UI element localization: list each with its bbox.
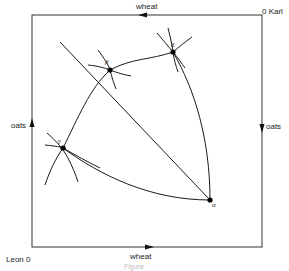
top-wheat-arrow-icon	[138, 13, 147, 18]
indiff-beta-b	[98, 50, 116, 89]
curve-beta-delta	[110, 52, 173, 70]
label-beta: β	[104, 58, 109, 66]
indiff-gamma-c	[45, 148, 63, 185]
curve-delta-alpha	[173, 52, 210, 200]
right-oats-label: oats	[266, 123, 281, 131]
point-gamma	[60, 145, 65, 150]
label-gamma: γ	[58, 137, 61, 145]
label-delta: δ	[171, 41, 175, 49]
karl-origin-label: 0 Karl	[262, 8, 283, 16]
top-wheat-label: wheat	[136, 3, 157, 11]
bottom-wheat-label: wheat	[130, 253, 151, 261]
diagonal-line	[60, 42, 210, 200]
curve-gamma-alpha	[63, 148, 210, 200]
left-oats-arrow-icon	[30, 118, 35, 127]
left-oats-label: oats	[11, 122, 26, 130]
point-delta	[170, 49, 175, 54]
curve-gamma-beta	[63, 70, 110, 148]
edgeworth-box-diagram: γ β δ α	[0, 0, 289, 271]
point-beta	[107, 67, 112, 72]
right-oats-arrow-icon	[260, 124, 265, 133]
bottom-wheat-arrow-icon	[145, 245, 154, 250]
figure-caption: Figure	[124, 263, 144, 270]
indiff-delta-c	[173, 37, 192, 52]
indiff-gamma-b	[47, 133, 78, 182]
box-frame	[32, 15, 262, 247]
leon-origin-label: Leon 0	[6, 256, 30, 264]
label-alpha: α	[212, 201, 216, 209]
